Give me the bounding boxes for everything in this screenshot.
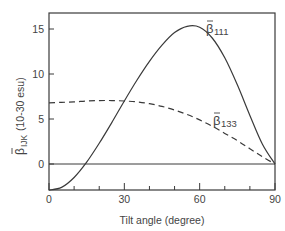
y-tick-label: 5 [38,113,44,125]
y-tick-label: 15 [32,23,44,35]
x-tick-label: 0 [46,193,52,205]
chart: 0510150306090 β111β133 Tilt angle (degre… [0,0,285,231]
y-label-unit: (10-30 esu) [14,77,26,131]
axis-ticks: 0510150306090 [32,23,281,205]
y-axis-label: βIJK (10-30 esu) [12,77,29,155]
series-label-subscript: 133 [221,118,237,129]
series-label-133: β [213,113,220,128]
series-label-subscript: 111 [214,26,228,37]
x-tick-label: 90 [269,193,281,205]
x-tick-label: 30 [118,193,130,205]
x-axis-label: Tilt angle (degree) [120,214,205,226]
x-tick-label: 60 [194,193,206,205]
y-label-subscript: IJK [19,134,29,147]
series-line-133 [49,100,275,164]
series-labels: β111β133 [206,21,237,129]
y-tick-label: 0 [38,158,44,170]
series-line-111 [49,26,275,190]
series-lines [49,26,275,190]
series-label-111: β [206,21,213,36]
y-tick-label: 10 [32,68,44,80]
y-label-symbol: β [13,148,27,155]
chart-svg: 0510150306090 β111β133 Tilt angle (degre… [0,0,285,231]
